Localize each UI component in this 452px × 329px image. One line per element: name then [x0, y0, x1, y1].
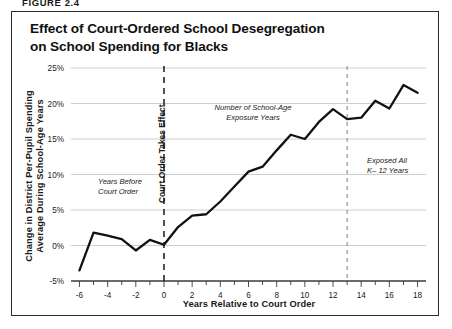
- x-axis-ticks: [79, 281, 417, 287]
- annotation-exposed-all-k12-line-2: K– 12 Years: [367, 166, 408, 175]
- y-axis-tick-label: 5%: [52, 206, 64, 215]
- x-axis-tick-label: -6: [76, 291, 84, 300]
- y-axis-tick-label: 20%: [48, 100, 64, 109]
- annotation-years-before-court-order-line-1: Years Before: [98, 177, 142, 186]
- x-axis-tick-label: 16: [385, 291, 395, 300]
- x-axis-title: Years Relative to Court Order: [183, 299, 316, 309]
- figure-root: FIGURE 2.4 Effect of Court-Ordered Schoo…: [0, 0, 452, 329]
- x-axis-tick-label: 12: [328, 291, 338, 300]
- y-axis-title-line-2: Average During School-Age Years: [35, 99, 45, 252]
- annotation-exposure-years-line-1: Number of School-Age: [215, 103, 292, 112]
- x-axis-tick-label: -2: [132, 291, 140, 300]
- chart-plot-area: -6-4-2024681012141618 -5%0%5%10%15%20%25…: [11, 11, 439, 316]
- figure-number-label: FIGURE 2.4: [22, 0, 80, 8]
- y-axis-tick-label: 25%: [48, 64, 64, 73]
- y-axis-tick-label: 15%: [48, 135, 64, 144]
- annotation-exposure-years-line-2: Exposure Years: [226, 113, 280, 122]
- annotation-exposed-all-k12-line-1: Exposed All: [367, 156, 407, 165]
- y-axis-title-line-1: Change in District Per-Pupil Spending: [24, 90, 34, 262]
- y-axis-tick-labels: -5%0%5%10%15%20%25%: [48, 64, 64, 286]
- reference-lines: [164, 66, 347, 281]
- x-axis-tick-label: 18: [413, 291, 423, 300]
- x-axis-tick-label: 14: [357, 291, 367, 300]
- y-axis-tick-label: -5%: [49, 277, 64, 286]
- annotation-court-order-takes-effect: Court Order Takes Effect: [157, 104, 167, 203]
- y-axis-tick-label: 10%: [48, 171, 64, 180]
- y-axis-tick-label: 0%: [52, 242, 64, 251]
- x-axis-tick-label: -4: [104, 291, 112, 300]
- annotation-years-before-court-order-line-2: Court Order: [98, 187, 139, 196]
- x-axis-tick-label: 0: [162, 291, 167, 300]
